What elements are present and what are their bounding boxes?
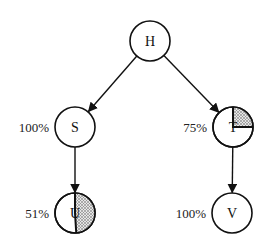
edges-group [75,55,233,192]
edge-h-to-t [164,55,219,112]
node-label: U [70,206,80,221]
node-v: V100% [176,193,252,233]
node-t: T75% [183,107,253,147]
tree-diagram: HS100%T75%U51%V100% [0,0,270,248]
edge-t-to-v [232,147,233,193]
percent-label: 100% [19,120,50,135]
node-label: T [229,120,238,135]
nodes-group: HS100%T75%U51%V100% [19,21,253,233]
edge-h-to-s [88,56,136,111]
node-u: U51% [25,193,95,233]
percent-label: 51% [25,206,49,221]
node-label: H [145,34,155,49]
node-s: S100% [19,107,95,147]
percent-label: 100% [176,206,207,221]
percent-label: 75% [183,120,207,135]
node-label: V [227,206,237,221]
node-label: S [71,120,79,135]
node-h: H [130,21,170,61]
